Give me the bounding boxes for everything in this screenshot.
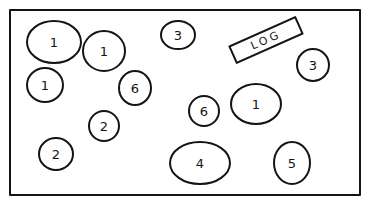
- diagram-frame: [10, 10, 360, 195]
- circle-label: 5: [288, 156, 296, 171]
- circle-node: 6: [119, 71, 151, 105]
- circle-label: 6: [131, 81, 139, 96]
- circle-label: 1: [252, 97, 260, 112]
- hand-drawn-diagram: LOG 113316612245: [0, 0, 367, 204]
- circle-label: 1: [41, 78, 49, 93]
- circle-label: 6: [200, 104, 208, 119]
- circle-label: 2: [100, 119, 108, 134]
- circle-node: 4: [170, 142, 230, 184]
- circle-node: 6: [189, 96, 219, 126]
- circle-node: 2: [89, 111, 119, 141]
- circle-label: 3: [309, 58, 317, 73]
- log-box: LOG: [229, 17, 302, 63]
- circle-node: 1: [27, 21, 81, 63]
- circle-node: 3: [297, 49, 329, 81]
- circle-node: 1: [27, 68, 63, 102]
- circle-node: 2: [39, 138, 73, 170]
- circle-label: 4: [196, 156, 204, 171]
- circle-label: 1: [100, 44, 108, 59]
- circle-label: 1: [50, 35, 58, 50]
- circle-node: 3: [161, 21, 195, 49]
- log-label: LOG: [249, 28, 283, 53]
- circle-node: 5: [274, 142, 310, 184]
- circle-label: 2: [52, 147, 60, 162]
- circles-group: 113316612245: [27, 21, 329, 184]
- circle-label: 3: [174, 28, 182, 43]
- circle-node: 1: [83, 31, 125, 71]
- circle-node: 1: [231, 84, 281, 124]
